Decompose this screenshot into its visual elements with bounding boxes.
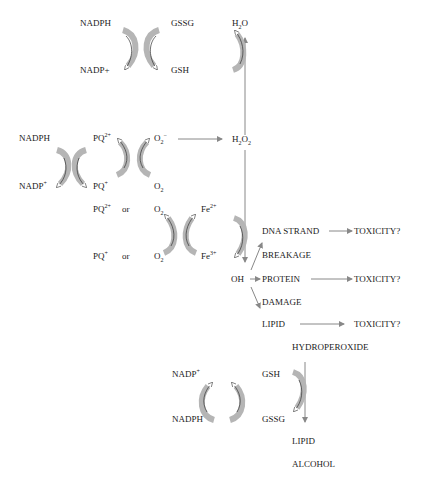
label-alcohol: ALCOHOL bbox=[292, 459, 335, 469]
label-h2o2: H2O2 bbox=[232, 134, 251, 144]
label-nadph-bottom: NADPH bbox=[172, 414, 203, 424]
label-pq2plus-fenton: PQ2+ bbox=[93, 204, 111, 214]
h2o2-fenton-curve-icon bbox=[234, 218, 245, 256]
label-gsh-bottom: GSH bbox=[262, 369, 280, 379]
label-fe2: Fe2+ bbox=[201, 204, 216, 214]
label-h2o: H2O bbox=[232, 18, 248, 28]
nadph-regeneration-curve-icon bbox=[202, 384, 214, 420]
label-superoxide: O2− bbox=[154, 133, 167, 143]
oh-to-dna-arrow bbox=[251, 243, 262, 270]
gsh-regeneration-curve-icon bbox=[230, 384, 242, 420]
label-breakage: BREAKAGE bbox=[262, 250, 311, 260]
oh-to-lipid-arrow bbox=[251, 287, 260, 308]
label-fe3: Fe3+ bbox=[201, 251, 216, 261]
label-nadph-pq: NADPH bbox=[19, 133, 50, 143]
label-or-2: or bbox=[122, 251, 130, 261]
label-gssg-top: GSSG bbox=[171, 18, 194, 28]
label-nadph-top: NADPH bbox=[80, 18, 111, 28]
label-protein: PROTEIN bbox=[262, 274, 300, 284]
gssg-reduction-curve-icon bbox=[147, 30, 159, 68]
diagram-arrows bbox=[0, 0, 425, 479]
label-gsh-top: GSH bbox=[171, 65, 189, 75]
label-pq2plus: PQ2+ bbox=[93, 133, 111, 143]
o2-fenton-curve-icon bbox=[164, 216, 174, 253]
label-o2-fenton-top: O2 bbox=[154, 204, 164, 214]
pq-oxidation-curve-icon bbox=[117, 140, 127, 175]
label-oh: OH bbox=[231, 274, 244, 284]
label-o2: O2 bbox=[154, 181, 164, 191]
label-dna-strand: DNA STRAND bbox=[262, 226, 319, 236]
o2-reduction-curve-icon bbox=[140, 140, 150, 175]
label-damage: DAMAGE bbox=[262, 297, 302, 307]
label-toxicity-lipid: TOXICITY? bbox=[354, 319, 400, 329]
label-or-1: or bbox=[122, 204, 130, 214]
pq-reduction-curve-icon bbox=[75, 150, 86, 186]
label-nadp-bottom: NADP+ bbox=[172, 369, 200, 379]
fe-oxidation-curve-icon bbox=[186, 216, 196, 253]
gsh-oxidation-curve-icon bbox=[293, 372, 304, 410]
label-lipid: LIPID bbox=[262, 319, 285, 329]
label-lipid-bottom: LIPID bbox=[292, 436, 315, 446]
nadph-pq-curve-left-icon bbox=[57, 150, 68, 186]
nadph-oxidation-curve-icon bbox=[123, 30, 135, 68]
label-pq-plus: PQ+ bbox=[93, 181, 108, 191]
label-nadp-pq: NADP+ bbox=[19, 181, 47, 191]
label-pq-plus-fenton: PQ+ bbox=[93, 251, 108, 261]
label-o2-fenton-bottom: O2 bbox=[154, 251, 164, 261]
label-gssg-bottom: GSSG bbox=[262, 414, 285, 424]
label-toxicity-protein: TOXICITY? bbox=[354, 274, 400, 284]
label-nadp-plus-top: NADP+ bbox=[80, 65, 110, 75]
label-hydroperoxide: HYDROPEROXIDE bbox=[292, 342, 369, 352]
label-toxicity-dna: TOXICITY? bbox=[354, 226, 400, 236]
h2o2-reduction-curve-icon bbox=[233, 32, 243, 70]
